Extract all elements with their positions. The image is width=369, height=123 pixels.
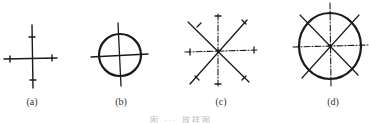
figure-c-label: (c) bbox=[206, 96, 236, 107]
figure-a-cross bbox=[4, 25, 57, 88]
figure-a-label: (a) bbox=[17, 96, 47, 107]
figure-caption: 图 ··· 放样图 bbox=[150, 114, 212, 123]
figure-c-star bbox=[185, 14, 258, 86]
figure-d-label: (d) bbox=[318, 96, 348, 107]
figure-d-circle-spokes bbox=[293, 3, 369, 86]
figure-b-label: (b) bbox=[106, 96, 136, 107]
figure-b-circle-cross bbox=[91, 23, 148, 86]
diagram-canvas bbox=[0, 0, 369, 123]
